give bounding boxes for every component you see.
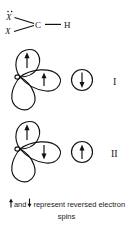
spin-arrow-lobe-top [24, 124, 29, 140]
spin-arrow-lobe-top [24, 52, 29, 68]
orbital-lobe-bottom [12, 77, 35, 110]
caption-mid-text: and [14, 199, 27, 210]
caption-line-1: and represent reversed electron [0, 198, 133, 211]
orbital-lobe-bottom [12, 149, 35, 182]
caption-line-2: spins [0, 211, 133, 222]
spin-arrow-circle-2 [80, 145, 85, 160]
figure-canvas: X X C H [0, 0, 133, 236]
diagram-2-roman-label: II [111, 148, 118, 159]
caption-arrow-down-icon [26, 198, 33, 211]
caption-text-after: represent reversed electron [33, 199, 125, 210]
chemical-formula: X X C H [0, 4, 133, 40]
atom-hydrogen: H [64, 20, 71, 30]
figure-caption: and represent reversed electron spins [0, 198, 133, 222]
diagram-1-roman-label: I [113, 76, 116, 87]
spin-arrow-circle-1 [80, 73, 85, 89]
atom-x-top: X [5, 12, 12, 22]
atom-carbon: C [35, 20, 41, 30]
spin-arrow-lobe-right [42, 145, 47, 159]
bond-xbottom-carbon [14, 26, 34, 32]
spin-arrow-lobe-right [42, 72, 47, 86]
atom-x-bottom: X [4, 26, 11, 36]
bond-xtop-carbon [15, 18, 35, 24]
